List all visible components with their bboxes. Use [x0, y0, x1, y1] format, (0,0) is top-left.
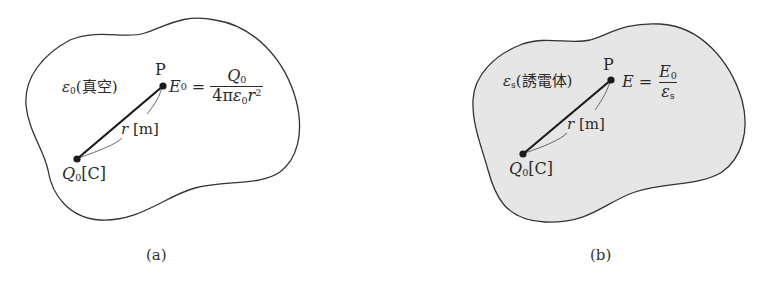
- vacuum-region-outline: [26, 18, 300, 220]
- epsilon-symbol: ε: [503, 72, 511, 90]
- point-p-a: [159, 82, 166, 89]
- denominator-r-exponent: 2: [255, 87, 261, 98]
- fraction-denominator: 4πε0r2: [210, 86, 263, 105]
- figure-canvas: [0, 0, 769, 291]
- charge-label-a: Q0[C]: [62, 166, 106, 183]
- charge-point-a: [73, 155, 80, 162]
- distance-label-b: r [m]: [567, 117, 605, 132]
- point-label-p-b: P: [603, 57, 614, 73]
- charge-point-b: [519, 150, 526, 157]
- denominator-epsilon: ε: [661, 82, 670, 101]
- charge-symbol: Q: [62, 164, 75, 183]
- denominator-epsilon-sub: s: [670, 90, 675, 101]
- distance-symbol: r: [121, 120, 128, 138]
- caption-b: (b): [590, 246, 611, 264]
- field-symbol: E: [622, 74, 634, 90]
- epsilon-symbol: ε: [62, 78, 70, 96]
- fraction-numerator: E0: [657, 64, 679, 82]
- numerator-symbol: E: [659, 62, 671, 81]
- charge-label-b: Q0[C]: [509, 161, 553, 178]
- distance-unit: [m]: [133, 120, 159, 138]
- medium-name: (真空): [76, 78, 118, 96]
- equals-sign: =: [192, 79, 205, 95]
- charge-symbol: Q: [509, 159, 522, 178]
- charge-unit: [C]: [528, 159, 553, 178]
- dielectric-region-outline: [473, 24, 745, 222]
- caption-a: (a): [146, 246, 167, 264]
- field-formula-b: E = E0 εs: [622, 64, 679, 101]
- denominator-prefix: 4π: [212, 86, 233, 105]
- dielectric-fraction: E0 εs: [657, 64, 679, 101]
- numerator-subscript: 0: [671, 70, 677, 81]
- distance-unit: [m]: [579, 115, 605, 133]
- point-p-b: [607, 76, 614, 83]
- fraction-numerator: Q0: [225, 68, 248, 86]
- coulomb-fraction: Q0 4πε0r2: [210, 68, 263, 105]
- numerator-subscript: 0: [240, 74, 246, 85]
- medium-label-dielectric: εs(誘電体): [503, 74, 572, 90]
- equals-sign: =: [639, 74, 652, 90]
- distance-symbol: r: [567, 115, 574, 133]
- field-formula-a: E0 = Q0 4πε0r2: [169, 68, 263, 105]
- medium-label-vacuum: ε0(真空): [62, 80, 118, 96]
- denominator-epsilon: ε: [233, 86, 242, 105]
- field-subscript: 0: [181, 82, 187, 92]
- numerator-symbol: Q: [227, 66, 240, 85]
- field-symbol: E: [169, 79, 181, 95]
- distance-label-a: r [m]: [121, 122, 159, 137]
- charge-unit: [C]: [81, 164, 106, 183]
- fraction-denominator: εs: [659, 82, 677, 101]
- medium-name: (誘電体): [516, 72, 573, 90]
- point-label-p-a: P: [155, 62, 166, 78]
